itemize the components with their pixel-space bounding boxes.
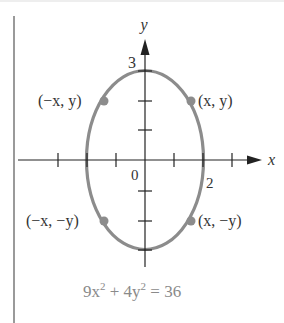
x-axis-arrow-icon [247,156,262,165]
point-lower-right [187,217,196,226]
x-axis-label: x [267,151,275,168]
point-label-upper-left: (−x, y) [38,92,82,110]
ellipse-diagram: y x 3 0 2 (x, y) (−x, y) (−x, −y) (x, −y… [0,0,284,323]
point-label-lower-left: (−x, −y) [26,212,79,230]
y-axis-arrow-icon [141,39,150,55]
point-label-upper-right: (x, y) [198,92,233,110]
origin-label: 0 [131,167,139,183]
x-axis [18,153,262,167]
x-intercept-label: 2 [206,175,214,191]
point-upper-right [187,97,196,106]
y-axis-label: y [138,16,148,34]
ellipse-equation: 9x2 + 4y2 = 36 [83,280,181,301]
point-label-lower-right: (x, −y) [198,212,242,230]
point-lower-left [100,217,109,226]
y-intercept-label: 3 [128,54,136,71]
y-axis [138,39,152,267]
point-upper-left [100,97,109,106]
